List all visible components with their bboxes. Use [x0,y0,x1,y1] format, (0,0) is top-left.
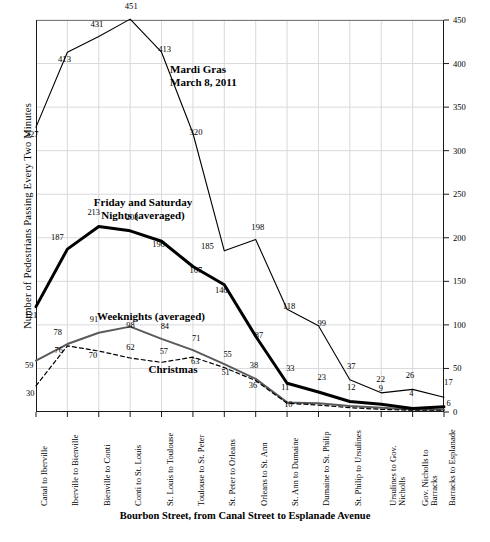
x-axis-label: Toulouse to St. Peter [197,420,206,506]
data-point-label: 167 [190,266,203,275]
data-point-label: 51 [221,368,229,377]
data-point-label: 23 [318,373,326,382]
data-point-label: 12 [347,383,355,392]
data-point-label: 185 [201,242,214,251]
data-point-label: 11 [281,383,289,392]
x-axis-label: Iberville to Bienville [71,420,80,506]
svg-text:150: 150 [453,276,466,286]
data-point-label: 9 [379,384,383,393]
data-point-label: 59 [25,361,33,370]
data-point-label: 57 [160,347,168,356]
data-point-label: 84 [161,322,169,331]
data-point-label: 17 [444,378,453,387]
data-point-label: 121 [25,311,38,320]
data-point-label: 146 [215,286,228,295]
data-point-label: 4 [409,389,413,398]
data-point-label: 71 [192,334,200,343]
data-point-label: 55 [223,350,231,359]
data-point-label: 10 [284,400,292,409]
annotation-christmas: Christmas [128,363,218,376]
data-point-label: 38 [250,361,258,370]
data-point-label: 37 [347,362,356,371]
x-axis-label: Barracks to Esplanade [448,420,457,506]
data-point-label: 99 [318,319,327,328]
data-point-label: 78 [53,328,61,337]
data-point-label: 91 [90,315,98,324]
data-point-label: 33 [286,364,294,373]
x-axis-label: Bienville to Conti [103,420,112,506]
data-point-label: 320 [190,128,203,137]
x-axis-label: St. Philip to Ursulines [354,420,363,506]
x-axis-label: Dumaine to St. Philip [322,420,331,506]
data-point-label: 62 [126,343,134,352]
x-axis-label: Ursulines to Gov. Nicholls [389,420,408,506]
data-point-label: 26 [406,371,415,380]
svg-text:450: 450 [453,15,466,25]
svg-text:100: 100 [453,320,466,330]
svg-text:250: 250 [453,189,466,199]
svg-text:50: 50 [453,363,462,373]
x-axis-label: Conti to St. Louis [134,420,143,506]
data-point-label: 22 [376,375,385,384]
x-axis-label: St. Louis to Toulouse [166,420,175,506]
x-axis-label: Gov. Nicholls to Barracks [421,420,440,506]
x-axis-title: Bourbon Street, from Canal Street to Esp… [0,510,490,521]
data-point-label: 6 [447,399,451,408]
svg-text:350: 350 [453,102,466,112]
svg-text:200: 200 [453,233,466,243]
data-point-label: 413 [58,55,71,64]
data-point-label: 208 [126,213,139,222]
data-point-label: 187 [51,233,64,242]
x-axis-label: St. Ann to Dumaine [291,420,300,506]
svg-text:400: 400 [453,59,466,69]
annotation-weeknights: Weeknights (averaged) [76,310,226,323]
data-point-label: 30 [26,389,34,398]
data-point-label: 98 [126,321,134,330]
x-axis-label: St. Peter to Orleans [228,420,237,506]
data-point-label: 36 [249,381,257,390]
data-point-label: 118 [283,302,296,311]
chart-figure: Number of Pedestrians Passing Every Two … [0,0,490,542]
data-point-label: 70 [89,351,97,360]
data-point-label: 213 [87,208,100,217]
data-point-label: 87 [255,331,263,340]
data-point-label: 196 [152,240,165,249]
x-axis-label: Orleans to St. Ann [260,420,269,506]
y-axis-ticks: 050100150200250300350400450 [444,15,466,417]
data-point-label: 431 [90,20,103,29]
svg-text:0: 0 [453,407,457,417]
x-axis-label: Canal to Iberville [40,420,49,506]
data-point-label: 451 [125,2,138,11]
data-point-label: 327 [26,130,39,139]
data-point-label: 76 [54,346,62,355]
data-point-label: 198 [251,223,264,232]
data-point-label: 63 [191,357,199,366]
x-axis-ticks [36,412,444,417]
data-point-label: 413 [158,45,171,54]
annotation-mardi-gras: Mardi Gras March 8, 2011 [170,63,290,89]
svg-text:300: 300 [453,146,466,156]
